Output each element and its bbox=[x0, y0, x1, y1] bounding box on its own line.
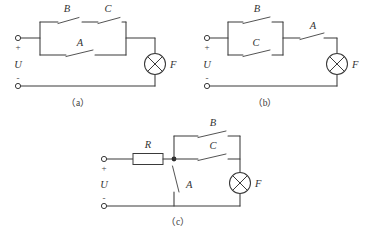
switch-c-blade-a[interactable] bbox=[98, 18, 120, 24]
switch-a-label-c: A bbox=[185, 179, 193, 190]
switch-c-blade-c[interactable] bbox=[198, 154, 226, 161]
plus-sign-b: + bbox=[204, 42, 209, 52]
switch-b-blade-b[interactable] bbox=[243, 17, 270, 24]
source-label-b: U bbox=[203, 59, 212, 70]
terminal-positive-c[interactable] bbox=[101, 156, 106, 161]
switch-a-blade-a[interactable] bbox=[66, 50, 93, 57]
switch-b-blade-c[interactable] bbox=[198, 131, 226, 138]
source-label-c: U bbox=[100, 179, 109, 190]
switch-c-blade-b[interactable] bbox=[243, 50, 270, 57]
terminal-negative-a[interactable] bbox=[15, 83, 20, 88]
minus-sign-c: - bbox=[103, 193, 106, 203]
switch-a-label-a: A bbox=[76, 37, 84, 48]
switch-b-label-a: B bbox=[64, 3, 71, 14]
switch-b-label-c: B bbox=[210, 117, 217, 128]
switch-a-blade-c[interactable] bbox=[173, 166, 180, 192]
plus-sign-a: + bbox=[15, 42, 20, 52]
resistor-r-body-c bbox=[133, 154, 163, 165]
caption-b: （b） bbox=[253, 97, 278, 108]
switch-b-blade-a[interactable] bbox=[58, 18, 79, 24]
plus-sign-c: + bbox=[101, 163, 106, 173]
caption-a: （a） bbox=[66, 97, 90, 108]
minus-sign-b: - bbox=[206, 73, 209, 83]
terminal-negative-c[interactable] bbox=[101, 203, 106, 208]
terminal-positive-a[interactable] bbox=[15, 35, 20, 40]
source-label-a: U bbox=[14, 59, 23, 70]
lamp-f-label-a: F bbox=[169, 59, 177, 70]
switch-b-label-b: B bbox=[254, 3, 261, 14]
terminal-positive-b[interactable] bbox=[204, 35, 209, 40]
circuit-canvas: B C A F + - U （a） bbox=[0, 0, 371, 234]
resistor-r-label-c: R bbox=[144, 139, 152, 150]
switch-a-label-b: A bbox=[309, 20, 317, 31]
switch-c-label-a: C bbox=[104, 3, 112, 14]
switch-c-label-b: C bbox=[252, 37, 260, 48]
circuit-c: R B C F bbox=[100, 117, 262, 227]
lamp-f-label-b: F bbox=[351, 59, 359, 70]
circuit-figure: B C A F + - U （a） bbox=[0, 0, 371, 234]
circuit-b: B C A F + - U （b） bbox=[203, 3, 359, 108]
switch-c-label-c: C bbox=[209, 140, 217, 151]
lamp-f-label-c: F bbox=[254, 178, 262, 189]
switch-a-blade-b[interactable] bbox=[300, 33, 324, 40]
terminal-negative-b[interactable] bbox=[204, 83, 209, 88]
minus-sign-a: - bbox=[17, 73, 20, 83]
caption-c: （c） bbox=[166, 216, 190, 227]
circuit-a: B C A F + - U （a） bbox=[14, 3, 177, 108]
